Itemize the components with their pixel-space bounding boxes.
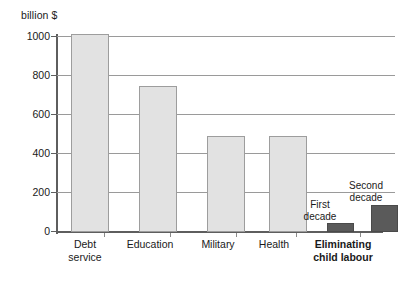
y-tick-mark-800 [51, 75, 56, 76]
x-tick-separator-1 [104, 233, 105, 237]
y-tick-label-400: 400 [32, 147, 50, 159]
y-tick-mark-0 [51, 231, 56, 232]
x-tick-separator-2 [170, 233, 171, 237]
category-label-eliminating-child-labour: Eliminating child labour [285, 238, 401, 263]
y-axis-unit-label: billion $ [21, 9, 58, 21]
bar-second-decade [371, 205, 398, 232]
y-tick-label-800: 800 [32, 69, 50, 81]
bar-military [207, 136, 245, 232]
y-tick-mark-600 [51, 114, 56, 115]
bar-education [139, 86, 177, 232]
bar-first-decade [327, 223, 354, 232]
y-tick-mark-200 [51, 192, 56, 193]
bar-debt-service [71, 34, 109, 232]
chart-figure: billion $ 1000 800 600 400 200 0 [0, 0, 408, 283]
y-tick-mark-1000 [51, 36, 56, 37]
y-tick-label-600: 600 [32, 108, 50, 120]
x-tick-separator-5 [360, 233, 361, 237]
y-tick-label-1000: 1000 [27, 30, 50, 42]
bar-caption-second-decade: Second decade [336, 180, 396, 204]
y-tick-label-0: 0 [44, 225, 50, 237]
y-tick-label-200: 200 [32, 186, 50, 198]
category-label-debt-service: Debt service [56, 238, 114, 263]
x-tick-separator-3 [236, 233, 237, 237]
x-tick-separator-4 [296, 233, 297, 237]
category-label-education: Education [110, 238, 190, 251]
y-tick-mark-400 [51, 153, 56, 154]
